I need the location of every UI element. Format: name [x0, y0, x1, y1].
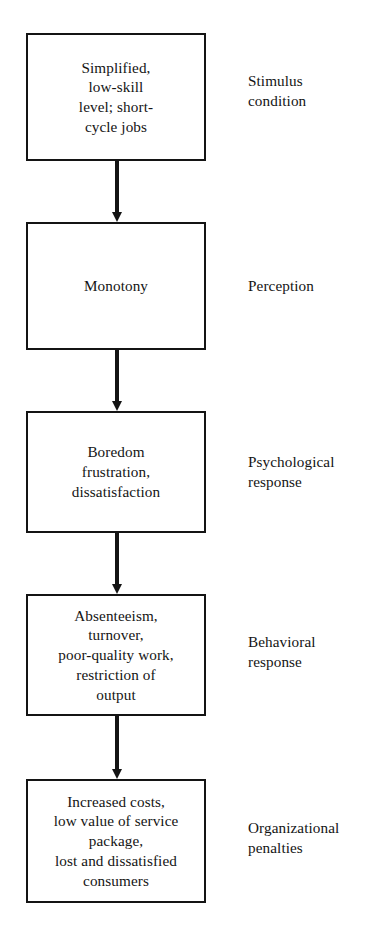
arrow-psychological-to-behavioral [104, 533, 130, 594]
flow-node-stimulus-text: Simplified, low-skill level; short- cycl… [73, 58, 159, 137]
arrow-stimulus-to-perception [104, 161, 130, 222]
flow-node-behavioral: Absenteeism, turnover, poor-quality work… [26, 594, 206, 716]
flow-label-organizational: Organizational penalties [248, 818, 339, 858]
flow-node-stimulus: Simplified, low-skill level; short- cycl… [26, 33, 206, 161]
flow-node-behavioral-text: Absenteeism, turnover, poor-quality work… [52, 606, 179, 705]
down-arrow-icon [112, 584, 122, 594]
arrow-behavioral-to-organizational [104, 716, 130, 779]
flow-node-perception-text: Monotony [78, 276, 154, 296]
flow-label-behavioral: Behavioral response [248, 632, 316, 672]
flow-node-psychological-text: Boredom frustration, dissatisfaction [66, 442, 166, 501]
flow-node-perception: Monotony [26, 222, 206, 350]
arrow-perception-to-psychological [104, 350, 130, 411]
flow-label-perception: Perception [248, 276, 314, 296]
down-arrow-shaft [115, 533, 118, 585]
down-arrow-shaft [115, 161, 118, 213]
down-arrow-shaft [115, 716, 118, 770]
flowchart-canvas: Simplified, low-skill level; short- cycl… [0, 0, 375, 932]
flow-label-psychological: Psychological response [248, 452, 335, 492]
flow-node-organizational-text: Increased costs, low value of service pa… [48, 792, 185, 891]
flow-node-psychological: Boredom frustration, dissatisfaction [26, 411, 206, 533]
down-arrow-icon [112, 401, 122, 411]
flow-label-stimulus: Stimulus condition [248, 71, 306, 111]
down-arrow-icon [112, 212, 122, 222]
flow-node-organizational: Increased costs, low value of service pa… [26, 779, 206, 903]
down-arrow-shaft [115, 350, 118, 402]
down-arrow-icon [112, 769, 122, 779]
